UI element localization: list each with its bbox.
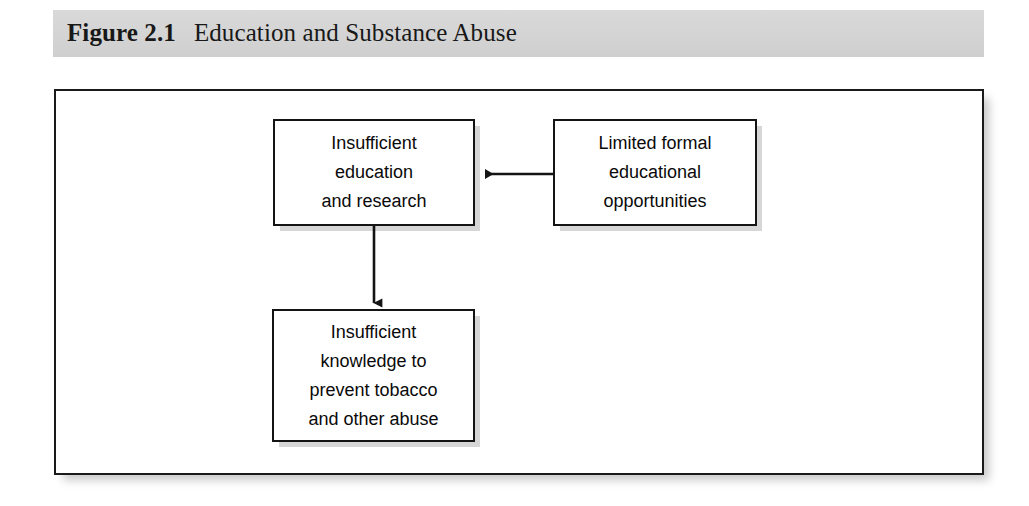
figure-title-label: Education and Substance Abuse	[194, 19, 517, 46]
node-line: Insufficient	[321, 129, 426, 158]
connector-layer	[56, 91, 986, 477]
node-line: knowledge to	[308, 347, 438, 376]
node-line: educational	[598, 158, 711, 187]
figure-frame: Insufficient education and research Limi…	[54, 89, 984, 475]
node-line: prevent tobacco	[308, 376, 438, 405]
node-limited-formal-education-text: Limited formal educational opportunities	[598, 129, 711, 216]
node-limited-formal-education: Limited formal educational opportunities	[553, 119, 757, 226]
node-line: Insufficient	[308, 318, 438, 347]
node-insufficient-knowledge-text: Insufficient knowledge to prevent tobacc…	[308, 318, 438, 434]
figure-caption: Figure 2.1Education and Substance Abuse	[67, 19, 517, 47]
node-insufficient-education: Insufficient education and research	[273, 119, 475, 226]
node-line: and research	[321, 187, 426, 216]
node-insufficient-knowledge: Insufficient knowledge to prevent tobacc…	[272, 309, 475, 442]
node-line: Limited formal	[598, 129, 711, 158]
node-line: opportunities	[598, 187, 711, 216]
figure-number-label: Figure 2.1	[67, 19, 176, 46]
node-line: education	[321, 158, 426, 187]
figure-caption-band: Figure 2.1Education and Substance Abuse	[53, 10, 984, 57]
node-insufficient-education-text: Insufficient education and research	[321, 129, 426, 216]
node-line: and other abuse	[308, 405, 438, 434]
